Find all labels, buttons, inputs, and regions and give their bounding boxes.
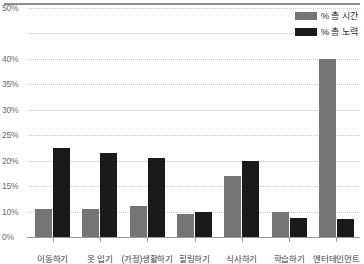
bar bbox=[272, 212, 289, 237]
x-axis-tickmark bbox=[289, 237, 290, 242]
bar bbox=[177, 214, 194, 237]
y-axis-tick-label: 25% bbox=[2, 130, 18, 140]
legend-label-total-effort: % 총 노력 bbox=[321, 25, 358, 38]
x-axis-line bbox=[27, 237, 360, 238]
bar bbox=[290, 218, 307, 237]
x-axis-tickmark bbox=[53, 237, 54, 242]
legend-item-total-time: % 총 시간 bbox=[295, 9, 358, 22]
bar bbox=[195, 212, 212, 237]
bar bbox=[100, 153, 117, 237]
top-divider bbox=[4, 3, 360, 5]
y-axis-tick-label: 30% bbox=[2, 105, 18, 115]
bar bbox=[130, 206, 147, 237]
x-axis-tickmark bbox=[336, 237, 337, 242]
legend-item-total-effort: % 총 노력 bbox=[295, 25, 358, 38]
bar bbox=[82, 209, 99, 237]
gridline bbox=[29, 135, 360, 136]
gridline bbox=[29, 161, 360, 162]
bar bbox=[53, 148, 70, 237]
x-axis-tick-label: 식사하기 bbox=[226, 252, 257, 264]
x-axis-tick-label: 엔터테인먼트 bbox=[313, 252, 359, 264]
y-axis-tick-label: 50% bbox=[2, 3, 18, 13]
gridline bbox=[29, 186, 360, 187]
bar bbox=[319, 59, 336, 237]
bar bbox=[242, 161, 259, 237]
y-axis-tick-label: 15% bbox=[2, 181, 18, 191]
y-axis-tick-label: 20% bbox=[2, 156, 18, 166]
bar bbox=[148, 158, 165, 237]
x-axis-tickmark bbox=[242, 237, 243, 242]
legend: % 총 시간 % 총 노력 bbox=[295, 9, 358, 38]
x-axis-tick-label: 옷 입기 bbox=[87, 252, 112, 264]
legend-label-total-time: % 총 시간 bbox=[321, 9, 358, 22]
y-axis-tick-label: 35% bbox=[2, 79, 18, 89]
y-axis-tick-label: 0% bbox=[2, 232, 14, 242]
gridline bbox=[29, 110, 360, 111]
plot-area: 이동하기옷 입기(가정)생활하기힐링하기식사하기학습하기엔터테인먼트 bbox=[29, 8, 360, 237]
y-axis-tick-label: 10% bbox=[2, 207, 18, 217]
x-axis-tickmark bbox=[100, 237, 101, 242]
y-axis-tick-label: 40% bbox=[2, 54, 18, 64]
x-axis-tick-label: (가정)생활하기 bbox=[122, 252, 173, 264]
gridline bbox=[29, 84, 360, 85]
bar bbox=[35, 209, 52, 237]
legend-swatch-total-effort bbox=[295, 28, 317, 36]
x-axis-tickmark bbox=[147, 237, 148, 242]
legend-swatch-total-time bbox=[295, 12, 317, 20]
bar bbox=[337, 219, 354, 237]
x-axis-tick-label: 이동하기 bbox=[37, 252, 68, 264]
bar bbox=[224, 176, 241, 237]
x-axis-tick-label: 힐링하기 bbox=[179, 252, 210, 264]
gridline bbox=[29, 59, 360, 60]
x-axis-tick-label: 학습하기 bbox=[274, 252, 305, 264]
x-axis-tickmark bbox=[195, 237, 196, 242]
